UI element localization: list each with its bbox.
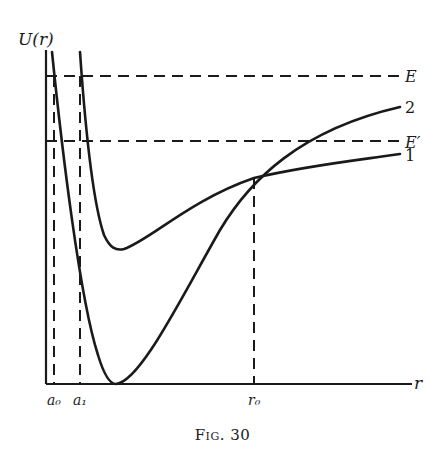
caption-number: 30 — [230, 426, 250, 444]
potential-energy-diagram: U(r) r E E′ a₀ a₁ r₀ 2 1 — [0, 0, 445, 456]
marker-r0-label: r₀ — [248, 392, 261, 408]
marker-a1-label: a₁ — [73, 392, 87, 408]
curve-1 — [80, 52, 400, 250]
marker-a0-label: a₀ — [47, 392, 61, 408]
curve-2-label: 2 — [405, 98, 415, 117]
figure-caption: Fig. 30 — [0, 426, 445, 444]
x-axis-label: r — [414, 373, 423, 393]
energy-level-E-label: E — [404, 67, 417, 86]
curve-2 — [52, 52, 400, 384]
curve-1-label: 1 — [405, 146, 415, 165]
caption-word: Fig. — [195, 426, 225, 444]
y-axis-label: U(r) — [18, 29, 54, 49]
